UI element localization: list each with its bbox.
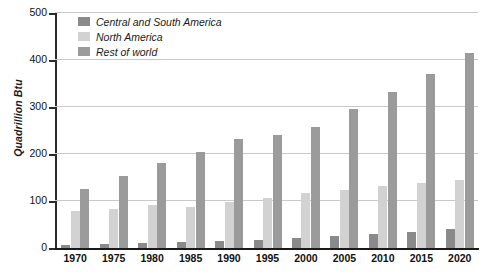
y-tick-500: 500: [7, 6, 47, 18]
bar: [465, 53, 474, 248]
legend-item: Rest of world: [78, 45, 222, 58]
bar-group: [446, 13, 474, 248]
bar: [100, 244, 109, 248]
bar: [330, 236, 339, 248]
legend: Central and South AmericaNorth AmericaRe…: [78, 15, 222, 58]
bar: [71, 211, 80, 248]
bar: [186, 207, 195, 248]
bar-group: [369, 13, 397, 248]
bar: [157, 163, 166, 248]
bar: [407, 232, 416, 248]
bar: [148, 205, 157, 248]
x-tick-1970: 1970: [53, 252, 97, 264]
bar: [196, 152, 205, 248]
x-tick-1980: 1980: [130, 252, 174, 264]
bar-group: [254, 13, 282, 248]
bar: [340, 190, 349, 248]
bar-group: [330, 13, 358, 248]
y-tick-mark-0: [49, 248, 55, 250]
bar: [263, 198, 272, 248]
x-tick-1990: 1990: [207, 252, 251, 264]
legend-swatch-icon: [78, 47, 90, 56]
x-tick-2010: 2010: [361, 252, 405, 264]
bar: [388, 92, 397, 249]
bar-group: [407, 13, 435, 248]
bar-chart: Quadrillion Btu 0100200300400500 1970197…: [0, 0, 486, 280]
x-tick-1985: 1985: [169, 252, 213, 264]
bar: [311, 127, 320, 248]
bar: [234, 139, 243, 248]
bar: [417, 183, 426, 248]
legend-label: Central and South America: [96, 16, 222, 28]
x-tick-2020: 2020: [438, 252, 482, 264]
y-tick-200: 200: [7, 147, 47, 159]
bar: [119, 176, 128, 248]
bar: [177, 242, 186, 248]
y-tick-mark-500: [49, 13, 55, 15]
legend-swatch-icon: [78, 17, 90, 26]
legend-item: North America: [78, 30, 222, 43]
y-tick-mark-300: [49, 107, 55, 109]
x-tick-2015: 2015: [399, 252, 443, 264]
y-tick-300: 300: [7, 100, 47, 112]
bar-group: [292, 13, 320, 248]
bar: [292, 238, 301, 248]
legend-label: North America: [96, 31, 163, 43]
x-axis-line: [55, 248, 479, 250]
y-tick-100: 100: [7, 194, 47, 206]
bar: [301, 193, 310, 248]
x-tick-2000: 2000: [284, 252, 328, 264]
bar: [369, 234, 378, 248]
bar: [80, 189, 89, 248]
legend-label: Rest of world: [96, 46, 157, 58]
y-tick-mark-400: [49, 60, 55, 62]
x-tick-2005: 2005: [322, 252, 366, 264]
legend-swatch-icon: [78, 32, 90, 41]
bar: [254, 240, 263, 248]
x-axis-tick-labels: 1970197519801985199019952000200520102015…: [55, 252, 478, 274]
bar: [109, 209, 118, 248]
legend-item: Central and South America: [78, 15, 222, 28]
y-tick-mark-200: [49, 154, 55, 156]
bar: [215, 241, 224, 248]
y-tick-0: 0: [7, 241, 47, 253]
bar: [273, 135, 282, 248]
y-axis-tick-labels: 0100200300400500: [0, 0, 47, 280]
x-tick-1975: 1975: [92, 252, 136, 264]
bar: [426, 74, 435, 248]
y-tick-mark-100: [49, 201, 55, 203]
y-tick-400: 400: [7, 53, 47, 65]
bar: [225, 202, 234, 248]
bar: [61, 245, 70, 248]
bar: [446, 229, 455, 248]
bar: [455, 180, 464, 248]
bar: [138, 243, 147, 248]
bar: [349, 109, 358, 248]
x-tick-1995: 1995: [246, 252, 290, 264]
bar: [378, 186, 387, 248]
